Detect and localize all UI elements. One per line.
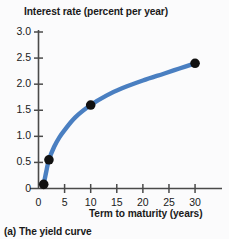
data-point-marker [190, 59, 200, 69]
x-tick-label: 30 [185, 196, 205, 208]
x-tick-label: 0 [29, 196, 49, 208]
y-tick-label: 3.0 [3, 25, 31, 37]
y-tick-label: 2.0 [3, 77, 31, 89]
y-tick-label: 2.5 [3, 51, 31, 63]
y-tick-label: 0.5 [3, 155, 31, 167]
y-tick-label: 1.5 [3, 103, 31, 115]
yield-curve-figure: Interest rate (percent per year) 00.51.0… [0, 0, 229, 239]
data-point-marker [44, 155, 54, 165]
figure-caption: (a) The yield curve [4, 226, 92, 237]
axes [30, 30, 222, 193]
data-point-marker [86, 100, 96, 110]
x-tick-label: 25 [159, 196, 179, 208]
data-point-marker [39, 180, 49, 190]
y-tick-label: 0 [3, 182, 31, 194]
yield-curve-line [44, 63, 195, 184]
x-axis-title: Term to maturity (years) [89, 208, 202, 219]
data-point-markers [39, 59, 200, 190]
x-tick-label: 5 [55, 196, 75, 208]
y-tick-label: 1.0 [3, 129, 31, 141]
x-tick-label: 15 [107, 196, 127, 208]
x-tick-label: 20 [133, 196, 153, 208]
x-tick-label: 10 [81, 196, 101, 208]
